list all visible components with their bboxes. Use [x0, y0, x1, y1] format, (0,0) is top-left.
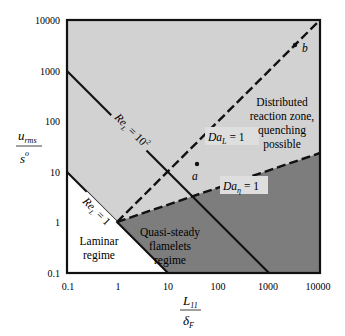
- da-eta-1-label: Daη = 1: [220, 176, 268, 195]
- x-label-num: L: [182, 293, 190, 308]
- x-tick: 10000: [306, 281, 331, 292]
- svg-text:reaction zone,: reaction zone,: [250, 110, 315, 123]
- x-label-den-sub: F: [188, 321, 194, 330]
- point-b-label: b: [302, 42, 308, 54]
- y-tick: 1: [55, 217, 60, 228]
- x-axis-label: L11 δF: [180, 293, 201, 330]
- svg-text:Quasi-steady: Quasi-steady: [140, 226, 200, 239]
- y-tick: 10: [50, 167, 60, 178]
- x-tick: 1: [116, 281, 121, 292]
- x-label-num-sub: 11: [190, 301, 197, 310]
- svg-text:L11: L11: [182, 293, 198, 310]
- da-l-1-label: DaL = 1: [205, 127, 259, 146]
- svg-text:regime: regime: [154, 254, 186, 267]
- svg-text:possible: possible: [263, 138, 301, 151]
- svg-text:so: so: [20, 149, 29, 166]
- svg-text:Distributed: Distributed: [256, 96, 308, 108]
- svg-text:Laminar: Laminar: [80, 235, 119, 247]
- point-a-marker: [195, 162, 199, 166]
- regime-diagram: a b 10000 1000 100 10 1 0.1 0.1 1 10 100…: [0, 0, 345, 336]
- point-a-label: a: [192, 170, 198, 182]
- y-tick: 100: [45, 116, 60, 127]
- x-tick: 0.1: [62, 281, 75, 292]
- x-tick: 100: [211, 281, 226, 292]
- y-label-num-sub: rms: [25, 136, 37, 145]
- y-tick: 0.1: [48, 268, 61, 279]
- svg-text:urms: urms: [18, 128, 37, 145]
- svg-text:regime: regime: [83, 249, 115, 262]
- svg-text:δF: δF: [183, 313, 194, 330]
- y-tick: 1000: [40, 66, 60, 77]
- y-axis-ticks: 10000 1000 100 10 1 0.1: [35, 15, 60, 279]
- point-b-marker: [293, 43, 297, 47]
- laminar-label: Laminar regime: [80, 235, 119, 262]
- x-tick: 10: [163, 281, 173, 292]
- y-tick: 10000: [35, 15, 60, 26]
- svg-text:quenching: quenching: [258, 124, 306, 137]
- x-axis-ticks: 0.1 1 10 100 1000 10000: [62, 281, 331, 292]
- y-label-den-sup: o: [25, 149, 29, 158]
- svg-text:flamelets: flamelets: [149, 240, 192, 252]
- x-tick: 1000: [258, 281, 278, 292]
- y-axis-label: urms so: [16, 128, 42, 166]
